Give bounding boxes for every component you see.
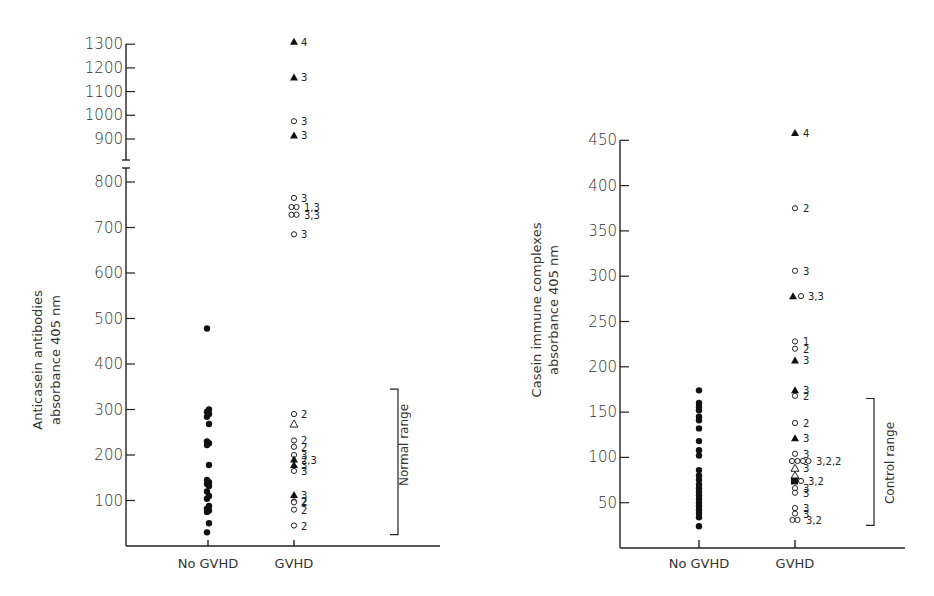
right-y-axis-title-line1: Casein immune complexes: [529, 222, 544, 397]
open-circle-marker: [291, 195, 296, 200]
filled-triangle-marker: [290, 73, 298, 80]
point-annotation: 4: [301, 37, 307, 48]
point-annotation: 4: [803, 128, 809, 139]
y-tick-label: 1200: [85, 59, 123, 77]
y-tick-label: 1100: [85, 83, 123, 101]
y-tick-label: 250: [588, 313, 617, 331]
open-circle-marker: [790, 517, 795, 522]
point-annotation: 3: [301, 72, 307, 83]
open-circle-marker: [792, 490, 797, 495]
y-tick-label: 300: [94, 401, 123, 419]
y-tick-label: 400: [94, 355, 123, 373]
filled-circle-marker: [696, 417, 702, 423]
control-range-label: Control range: [883, 422, 897, 504]
open-circle-marker: [792, 420, 797, 425]
open-circle-marker: [792, 451, 797, 456]
filled-triangle-marker: [290, 491, 298, 498]
open-circle-marker: [789, 458, 794, 463]
point-annotation: 3,3: [304, 210, 320, 221]
y-tick-label: 800: [94, 173, 123, 191]
filled-circle-marker: [206, 520, 212, 526]
y-tick-label: 1300: [85, 35, 123, 53]
y-tick-label: 1000: [85, 106, 123, 124]
filled-triangle-marker: [791, 129, 799, 136]
y-tick-label: 700: [94, 219, 123, 237]
open-circle-marker: [792, 206, 797, 211]
y-tick-label: 450: [588, 131, 617, 149]
open-circle-marker: [294, 212, 299, 217]
open-circle-marker: [294, 204, 299, 209]
open-circle-marker: [792, 339, 797, 344]
open-circle-marker: [291, 438, 296, 443]
point-annotation: 3: [803, 266, 809, 277]
open-circle-marker: [291, 411, 296, 416]
control-range-bracket: [866, 399, 874, 526]
point-annotation: 2: [301, 409, 307, 420]
left-data-points: 433331,33,3322232,33332222: [204, 37, 320, 536]
point-annotation: 3,3: [808, 291, 824, 302]
point-annotation: 2: [803, 418, 809, 429]
open-circle-marker: [291, 523, 296, 528]
filled-triangle-marker: [791, 386, 799, 393]
filled-circle-marker: [206, 462, 212, 468]
open-circle-marker: [795, 517, 800, 522]
open-circle-marker: [792, 506, 797, 511]
open-circle-marker: [798, 294, 803, 299]
filled-triangle-marker: [290, 38, 298, 45]
y-tick-label: 100: [588, 448, 617, 466]
y-tick-label: 100: [94, 492, 123, 510]
open-circle-marker: [792, 511, 797, 516]
right-y-ticks: 50100150200250300350400450: [588, 131, 629, 511]
right-x-label-no-gvhd: No GVHD: [669, 556, 730, 571]
filled-circle-marker: [696, 514, 702, 520]
y-tick-label: 500: [94, 310, 123, 328]
casein-immune-complexes-chart: 50100150200250300350400450 Casein immune…: [529, 128, 905, 571]
point-annotation: 2: [803, 203, 809, 214]
point-annotation: 3: [301, 229, 307, 240]
filled-circle-marker: [696, 407, 702, 413]
point-annotation: 3: [803, 463, 809, 474]
filled-circle-marker: [204, 509, 210, 515]
figure: 1002003004005006007008009001000110012001…: [0, 0, 934, 596]
filled-triangle-marker: [791, 356, 799, 363]
filled-circle-marker: [204, 414, 210, 420]
open-circle-marker: [289, 212, 294, 217]
point-annotation: 3: [803, 433, 809, 444]
right-x-label-gvhd: GVHD: [776, 556, 815, 571]
filled-circle-marker: [696, 438, 702, 444]
point-annotation: 2: [301, 505, 307, 516]
filled-triangle-marker: [789, 292, 797, 299]
left-axes: [122, 44, 440, 546]
point-annotation: 3,2,2: [816, 456, 841, 467]
right-axes: [620, 140, 905, 548]
filled-circle-marker: [696, 452, 702, 458]
left-x-label-gvhd: GVHD: [275, 556, 314, 571]
right-y-axis-title-line2: absorbance 405 nm: [546, 245, 561, 375]
open-triangle-marker: [290, 420, 298, 427]
open-circle-marker: [289, 204, 294, 209]
filled-square-marker: [791, 477, 798, 484]
filled-circle-marker: [204, 529, 210, 535]
open-circle-marker: [792, 393, 797, 398]
filled-circle-marker: [204, 495, 210, 501]
open-circle-marker: [291, 119, 296, 124]
y-tick-label: 350: [588, 222, 617, 240]
filled-circle-marker: [696, 387, 702, 393]
open-circle-marker: [291, 444, 296, 449]
open-triangle-marker: [791, 464, 799, 471]
normal-range-label: Normal range: [397, 404, 411, 486]
left-y-axis-title-line1: Anticasein antibodies: [30, 290, 45, 430]
open-circle-marker: [792, 346, 797, 351]
filled-triangle-marker: [791, 434, 799, 441]
y-tick-label: 600: [94, 264, 123, 282]
open-circle-marker: [795, 458, 800, 463]
filled-triangle-marker: [290, 131, 298, 138]
range-bracket-line: [866, 399, 874, 526]
point-annotation: 3,2: [808, 476, 824, 487]
left-y-axis-title-line2: absorbance 405 nm: [48, 295, 63, 425]
y-tick-label: 400: [588, 177, 617, 195]
point-annotation: 3: [301, 116, 307, 127]
y-tick-label: 200: [94, 446, 123, 464]
open-circle-marker: [792, 268, 797, 273]
anticasein-antibodies-chart: 1002003004005006007008009001000110012001…: [30, 35, 440, 571]
